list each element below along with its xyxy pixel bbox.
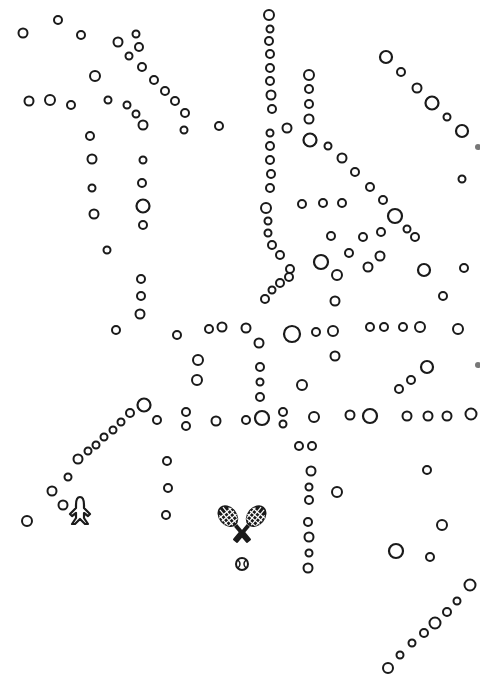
stop-circle (267, 91, 276, 100)
tennis-rackets-icon (213, 501, 270, 570)
stop-circle (255, 411, 269, 425)
stop-circle (327, 232, 335, 240)
stop-circle (319, 199, 327, 207)
stop-circle (306, 484, 313, 491)
stop-circle (279, 408, 287, 416)
stop-circle (328, 326, 338, 336)
stop-circle (443, 412, 452, 421)
stop-circle (415, 322, 425, 332)
stop-circle (112, 326, 120, 334)
stop-circle (276, 279, 284, 287)
stop-circle (305, 496, 313, 504)
stop-circle (283, 124, 292, 133)
stop-circle (346, 411, 355, 420)
dot-map (0, 0, 480, 682)
stop-circle (139, 221, 147, 229)
stop-circle (306, 550, 313, 557)
stop-circle (304, 564, 313, 573)
stop-circle (256, 363, 264, 371)
stop-circle (114, 38, 123, 47)
stop-circle (138, 399, 151, 412)
stop-circle (399, 323, 407, 331)
stop-circle (295, 442, 303, 450)
stop-circle (218, 323, 227, 332)
stop-circle (407, 376, 415, 384)
stop-circle (304, 134, 317, 147)
stop-circle (205, 325, 213, 333)
stop-circle (466, 409, 477, 420)
stop-circle (298, 200, 306, 208)
stop-circle (359, 233, 367, 241)
stop-circle (133, 31, 140, 38)
stop-circle (126, 53, 133, 60)
stop-circle (460, 264, 468, 272)
stop-circle (420, 629, 428, 637)
stop-circle (181, 109, 189, 117)
stop-circle (77, 31, 85, 39)
stop-circle (351, 168, 359, 176)
stop-circle (48, 487, 57, 496)
stop-circle (305, 115, 314, 124)
stop-circle (284, 326, 300, 342)
stop-circle (182, 408, 190, 416)
stop-circle (454, 598, 461, 605)
stop-circle (137, 200, 150, 213)
stop-circle (54, 16, 62, 24)
stop-circle (307, 467, 316, 476)
stop-circle (126, 409, 134, 417)
stop-circle (325, 143, 332, 150)
stop-circle (212, 417, 221, 426)
stop-circle (421, 361, 433, 373)
stop-circle (380, 51, 392, 63)
stop-circle (74, 455, 83, 464)
stop-circle (89, 185, 96, 192)
stop-circle (269, 287, 276, 294)
stop-circle (364, 263, 373, 272)
stop-circle (331, 352, 340, 361)
stop-circle (255, 339, 264, 348)
edge-mark (475, 144, 480, 150)
stop-circle (266, 156, 274, 164)
stop-circle (444, 114, 451, 121)
stop-circle (105, 97, 112, 104)
stop-circle (264, 10, 274, 20)
stop-circle (138, 63, 146, 71)
stop-circle (280, 421, 287, 428)
stop-circle (65, 474, 72, 481)
stop-circle (285, 273, 293, 281)
stop-circle (376, 252, 385, 261)
stop-circle (137, 275, 145, 283)
stop-circle (45, 95, 55, 105)
stop-circle (304, 518, 312, 526)
stop-circle (426, 553, 434, 561)
stop-circle (309, 412, 319, 422)
stop-circle (426, 97, 439, 110)
stop-circle (439, 292, 447, 300)
stop-circle (242, 416, 250, 424)
stop-circle (305, 100, 313, 108)
stop-circle (266, 77, 274, 85)
stop-circle (139, 121, 148, 130)
stop-circle (90, 210, 99, 219)
airplane-icon (70, 497, 90, 524)
stop-circle (181, 127, 188, 134)
stop-circle (437, 520, 447, 530)
stop-circle (164, 484, 172, 492)
stop-circle (430, 618, 441, 629)
stop-circle (161, 87, 169, 95)
stop-circle (331, 297, 340, 306)
stop-circle (257, 379, 264, 386)
stop-circle (338, 154, 347, 163)
tennis-ball-icon (236, 558, 248, 570)
stop-circle (25, 97, 34, 106)
stop-circle (192, 375, 202, 385)
stop-circle (411, 233, 419, 241)
stop-circle (312, 328, 320, 336)
stop-circle (135, 43, 143, 51)
stop-circle (308, 442, 316, 450)
stop-circle (265, 37, 273, 45)
stop-circle (338, 199, 346, 207)
stop-circle (297, 380, 307, 390)
stop-circle (110, 427, 117, 434)
stop-circle (314, 255, 328, 269)
